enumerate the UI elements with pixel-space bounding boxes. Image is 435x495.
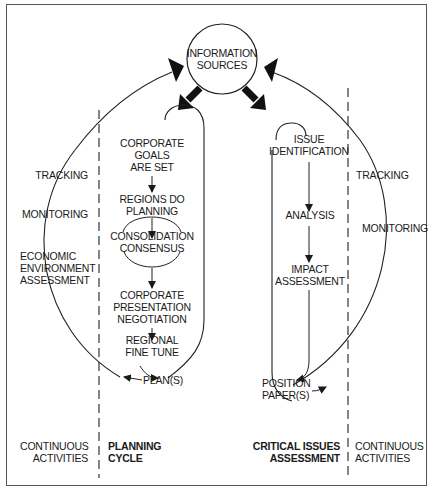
footer-left-continuous: CONTINUOUS ACTIVITIES bbox=[20, 440, 88, 464]
step-regions-planning: REGIONS DO PLANNING bbox=[110, 193, 194, 217]
left-economic-assessment: ECONOMIC ENVIRONMENT ASSESSMENT bbox=[20, 250, 95, 286]
step-corporate-presentation: CORPORATE PRESENTATION NEGOTIATION bbox=[104, 289, 200, 325]
critical-loop bbox=[272, 123, 306, 401]
step-consolidation: CONSOLIDATION CONSENSUS bbox=[104, 230, 200, 254]
thick-arrow-to-planning bbox=[178, 88, 200, 110]
diagram-graphics bbox=[0, 0, 435, 495]
left-feedback-arc bbox=[44, 72, 172, 377]
consolidation-bottom-arc bbox=[124, 252, 180, 267]
right-tracking: TRACKING bbox=[356, 169, 409, 181]
step-issue-identification: ISSUE IDENTIFICATION bbox=[266, 133, 352, 157]
thick-arrow-to-critical bbox=[244, 88, 266, 110]
left-tracking: TRACKING bbox=[22, 169, 88, 181]
arrowhead-right-into-sources bbox=[264, 58, 278, 82]
step-impact-assessment: IMPACT ASSESSMENT bbox=[274, 263, 346, 287]
footer-planning-cycle: PLANNING CYCLE bbox=[108, 440, 161, 464]
step-analysis: ANALYSIS bbox=[284, 209, 336, 221]
plans-output: PLAN(S) bbox=[143, 374, 183, 386]
right-monitoring: MONITORING bbox=[362, 222, 428, 234]
footer-right-continuous: CONTINUOUS ACTIVITIES bbox=[355, 440, 424, 464]
step-corporate-goals: CORPORATE GOALS ARE SET bbox=[110, 137, 194, 173]
footer-critical-issues: CRITICAL ISSUES ASSESSMENT bbox=[248, 440, 340, 464]
information-sources-label: INFORMATION SOURCES bbox=[186, 47, 258, 71]
arrowhead-left-into-sources bbox=[168, 58, 184, 82]
step-regional-fine-tune: REGIONAL FINE TUNE bbox=[110, 334, 194, 358]
left-monitoring: MONITORING bbox=[14, 208, 88, 220]
position-papers-output: POSITION PAPER(S) bbox=[262, 377, 311, 401]
